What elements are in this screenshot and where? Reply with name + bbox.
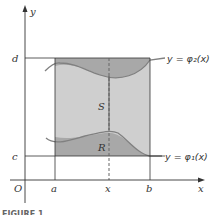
tick-x: x — [105, 183, 111, 194]
region-r-label: R — [97, 142, 106, 153]
double-integral-diagram: y d c O a x b x S R y = φ₂(x) y = φ₁(x) … — [0, 0, 210, 215]
tick-b: b — [146, 183, 152, 194]
x-axis-label: x — [198, 183, 204, 194]
x-axis-arrow-icon — [198, 178, 205, 183]
curve-phi1-label: y = φ₁(x) — [164, 151, 208, 162]
origin-label: O — [14, 183, 22, 194]
figure-caption: FIGURE 1 — [2, 210, 44, 215]
y-axis-arrow-icon — [23, 5, 28, 12]
curve-phi2-label: y = φ₂(x) — [166, 53, 210, 64]
region-s-label: S — [98, 101, 105, 112]
tick-a: a — [51, 183, 57, 194]
y-axis-label: y — [29, 6, 36, 17]
tick-d: d — [12, 53, 18, 64]
tick-c: c — [12, 151, 18, 162]
